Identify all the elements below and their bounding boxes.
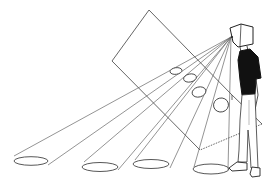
eye: [231, 36, 233, 38]
sight-rays: [14, 37, 231, 170]
left-shoe: [229, 162, 247, 171]
right-shoe: [250, 167, 260, 177]
trousers: [238, 94, 258, 168]
figure: [229, 24, 261, 177]
drawing-canvas: [0, 0, 272, 188]
box-head: [230, 24, 253, 47]
illustration: Line drawing: box-headed figure viewing …: [0, 0, 272, 188]
shirt: [238, 49, 261, 95]
